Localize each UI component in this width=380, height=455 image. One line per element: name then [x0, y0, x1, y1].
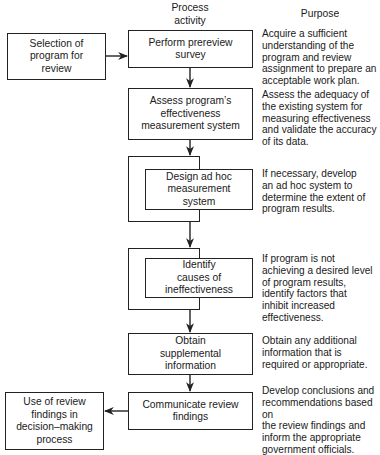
purpose-prereview: Acquire a sufficient understanding of th…: [262, 28, 380, 87]
purpose-assess: Assess the adequacy of the existing syst…: [262, 89, 380, 148]
step-design-ad-hoc-system: Design ad hoc measurement system: [145, 169, 253, 210]
use-of-findings-box: Use of review findings in decision–makin…: [5, 392, 104, 450]
step-communicate-findings: Communicate review findings: [128, 392, 253, 430]
purpose-obtain: Obtain any additional information that i…: [262, 335, 380, 370]
selection-of-program-box: Selection of program for review: [7, 33, 106, 80]
step-obtain-supplemental-info: Obtain supplemental information: [128, 333, 253, 375]
step-perform-prereview-survey: Perform prereview survey: [128, 30, 253, 68]
step-identify-causes: Identify causes of ineffectiveness: [145, 258, 253, 298]
purpose-identify: If program is not achieving a desired le…: [262, 253, 380, 324]
purpose-communicate: Develop conclusions and recommendations …: [262, 385, 380, 455]
purpose-design: If necessary, develop an ad hoc system t…: [262, 168, 380, 215]
step-assess-measurement-system: Assess program’s effectiveness measureme…: [128, 88, 253, 140]
